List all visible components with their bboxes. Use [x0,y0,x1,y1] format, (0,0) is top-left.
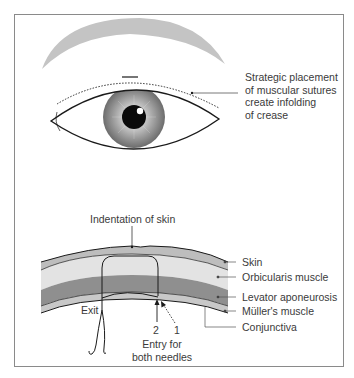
annotation-line: create infolding [245,96,338,109]
conjunctiva-label: Conjunctiva [242,321,297,334]
needle-2-number: 2 [153,324,159,337]
needle-1-number: 1 [174,324,180,337]
needle-1-arrow [163,304,175,323]
entry-label-line: Entry for [130,338,194,351]
muller-label: Müller's muscle [242,305,314,318]
eyebrow [42,18,225,69]
annotation-line: of muscular sutures [245,84,338,97]
orbicularis-label: Orbicularis muscle [242,271,328,284]
skin-label: Skin [242,256,262,269]
levator-label: Levator aponeurosis [242,291,337,304]
pupil-highlight [137,108,143,114]
eyelid-surgery-diagram [0,0,354,378]
annotation-text: Strategic placement of muscular sutures … [245,71,338,121]
exit-label: Exit [81,304,99,317]
pupil [122,105,146,129]
indentation-label: Indentation of skin [90,213,175,226]
entry-label-line: both needles [130,351,194,364]
annotation-line: Strategic placement [245,71,338,84]
annotation-line: of crease [245,109,338,122]
entry-label: Entry for both needles [130,338,194,363]
